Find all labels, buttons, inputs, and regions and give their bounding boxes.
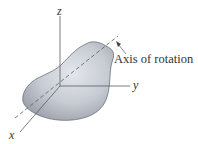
- arrowhead-icon: [116, 41, 121, 47]
- rigid-body: [23, 42, 114, 120]
- x-axis-label: x: [9, 128, 14, 143]
- z-axis-label: z: [57, 4, 62, 19]
- axis-of-rotation-label: Axis of rotation: [114, 52, 193, 67]
- diagram-graphic: [0, 0, 198, 144]
- y-axis-label: y: [133, 78, 138, 93]
- rotation-diagram: z y x Axis of rotation: [0, 0, 198, 144]
